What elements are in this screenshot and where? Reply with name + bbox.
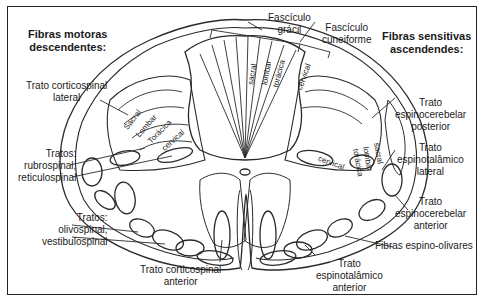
- label-fasciculo-cuneiforme: Fascículo cuneiforme: [322, 22, 371, 46]
- label-fibras-espino-olivares: Fibras espino-olivares: [375, 240, 473, 252]
- label-trato-espinocerebelar-anterior: Trato espinocerebelar anterior: [395, 196, 466, 232]
- label-tratos-rubro-reticulospinal: Tratos: rubrospinal, reticulospinal: [18, 148, 76, 184]
- label-tratos-olivo-vestibulospinal: Tratos: olivospinal, vestibulospinal: [42, 212, 108, 248]
- heading-motor-descending: Fibras motoras descendentes:: [28, 28, 107, 54]
- label-trato-espinocerebelar-posterior: Trato espinocerebelar posterior: [395, 97, 466, 133]
- label-trato-espinotalamico-anterior: Trato espinotalâmico anterior: [316, 258, 383, 294]
- label-trato-espinotalamico-lateral: Trato espinotalâmico lateral: [397, 142, 464, 178]
- label-fasciculo-gracil: Fascículo grácil: [268, 12, 311, 36]
- heading-sensory-ascending: Fibras sensitivas ascendendes:: [382, 30, 471, 56]
- central-canal: [240, 169, 250, 175]
- label-trato-corticospinal-lateral: Trato corticospinal lateral: [26, 80, 107, 104]
- label-trato-corticospinal-anterior: Trato corticospinal anterior: [140, 264, 221, 288]
